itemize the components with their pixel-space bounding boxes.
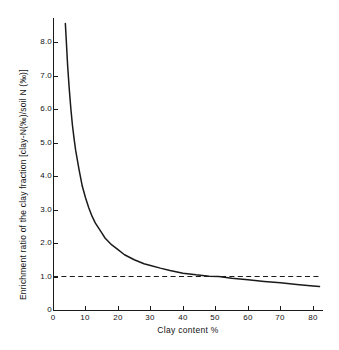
enrichment-ratio-curve <box>65 24 319 287</box>
chart-series-layer <box>0 0 339 350</box>
x-axis-title: Clay content % <box>53 325 323 335</box>
plot-area: 0 1.0 2.0 3.0 4.0 5.0 6.0 7.0 8.0 0 10 2… <box>0 0 339 350</box>
y-axis-title: Enrichment ratio of the clay fraction [c… <box>18 69 28 300</box>
figure-canvas: 0 1.0 2.0 3.0 4.0 5.0 6.0 7.0 8.0 0 10 2… <box>0 0 339 350</box>
